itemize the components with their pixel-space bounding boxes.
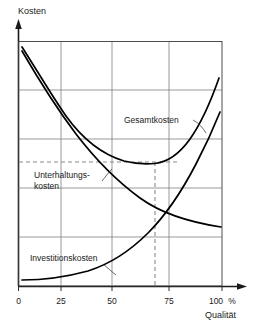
label-investitionskosten-group: Investitionskosten (30, 253, 116, 275)
x-axis-unit-label: % (228, 296, 236, 306)
x-tick-label-0: 0 (16, 296, 21, 306)
x-tick-label-50: 50 (107, 296, 117, 306)
y-axis-title: Kosten (18, 6, 46, 16)
x-axis-title: Qualität (205, 310, 237, 320)
chart-svg: Kosten (0, 0, 254, 326)
label-gesamtkosten: Gesamtkosten (124, 115, 179, 125)
label-gesamtkosten-group: Gesamtkosten (124, 115, 206, 133)
x-tick-label-25: 25 (56, 296, 66, 306)
x-tick-label-100: 100 (209, 296, 223, 306)
horizontal-gridlines (19, 90, 223, 237)
label-unterhaltungskosten-line2: kosten (34, 181, 59, 191)
curve-gesamtkosten (22, 47, 219, 164)
plot-frame (19, 42, 223, 287)
label-unterhaltungskosten-line1: Unterhaltungs- (34, 170, 90, 180)
label-investitionskosten: Investitionskosten (30, 253, 98, 263)
x-tick-labels: 0 25 50 75 100 % (16, 296, 236, 306)
cost-quality-chart: Kosten (0, 0, 254, 326)
x-axis-arrow (18, 283, 247, 290)
x-tick-label-75: 75 (164, 296, 174, 306)
